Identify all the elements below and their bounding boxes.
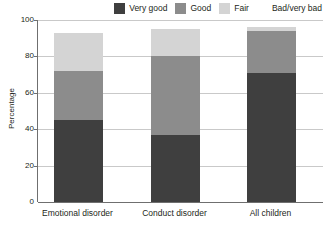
legend-swatch-bad-very-bad bbox=[257, 3, 268, 14]
bar-segment-very-good bbox=[247, 73, 296, 202]
legend-label-very-good: Very good bbox=[129, 3, 167, 14]
legend-label-bad-very-bad: Bad/very bad bbox=[272, 3, 322, 14]
bar-segment-fair bbox=[54, 33, 103, 71]
x-tick-conduct-disorder: Conduct disorder bbox=[125, 208, 224, 218]
y-tick-100: 100 bbox=[12, 16, 34, 24]
y-axis-tick-labels: 100 80 60 40 20 0 bbox=[0, 16, 34, 227]
bar-emotional-disorder bbox=[54, 33, 103, 202]
bar-segment-very-good bbox=[151, 135, 200, 202]
plot-area-wrapper: Percentage 100 80 60 40 20 0 bbox=[0, 16, 326, 227]
legend-item-fair: Fair bbox=[219, 3, 249, 14]
legend-swatch-fair bbox=[219, 3, 230, 14]
chart-legend: Very good Good Fair Bad/very bad bbox=[0, 0, 326, 16]
legend-swatch-very-good bbox=[114, 3, 125, 14]
legend-item-bad-very-bad: Bad/very bad bbox=[257, 3, 322, 14]
x-axis-tick-labels: Emotional disorder Conduct disorder All … bbox=[37, 208, 322, 224]
x-axis-line bbox=[38, 202, 323, 203]
legend-item-very-good: Very good bbox=[114, 3, 167, 14]
x-tick-emotional-disorder: Emotional disorder bbox=[28, 208, 127, 218]
y-tick-80: 80 bbox=[12, 52, 34, 60]
y-tick-40: 40 bbox=[12, 125, 34, 133]
y-tick-20: 20 bbox=[12, 162, 34, 170]
stacked-bar-chart: Very good Good Fair Bad/very bad Percent… bbox=[0, 0, 326, 227]
bar-segment-good bbox=[54, 71, 103, 120]
legend-swatch-good bbox=[175, 3, 186, 14]
y-tick-0: 0 bbox=[12, 198, 34, 206]
bar-all-children bbox=[247, 27, 296, 202]
gridline-100 bbox=[38, 20, 323, 21]
legend-item-good: Good bbox=[175, 3, 211, 14]
legend-label-fair: Fair bbox=[234, 3, 249, 14]
legend-label-good: Good bbox=[190, 3, 211, 14]
bar-segment-fair bbox=[151, 29, 200, 56]
bar-segment-good bbox=[247, 31, 296, 73]
bar-segment-very-good bbox=[54, 120, 103, 202]
plot-area bbox=[37, 20, 323, 202]
x-tick-all-children: All children bbox=[221, 208, 320, 218]
bar-segment-good bbox=[151, 56, 200, 134]
y-tick-60: 60 bbox=[12, 89, 34, 97]
bar-conduct-disorder bbox=[151, 29, 200, 202]
